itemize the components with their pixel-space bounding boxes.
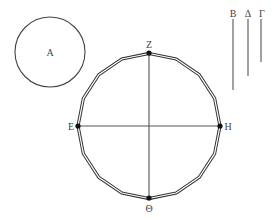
label-a: A xyxy=(46,47,54,58)
circle-a: A xyxy=(15,17,85,87)
label-z: Z xyxy=(146,39,152,50)
point-z xyxy=(146,50,151,55)
segment-b: B xyxy=(230,8,237,90)
segment-gamma: Γ xyxy=(259,8,265,62)
label-gamma: Γ xyxy=(259,8,265,19)
point-theta xyxy=(146,195,151,200)
geometry-diagram: A B Δ Γ Z E H Θ xyxy=(0,0,278,218)
segment-delta: Δ xyxy=(245,8,252,76)
label-delta: Δ xyxy=(245,8,252,19)
label-e: E xyxy=(68,121,74,132)
label-b: B xyxy=(230,8,237,19)
label-theta: Θ xyxy=(145,203,152,214)
label-h: H xyxy=(224,121,231,132)
point-e xyxy=(75,123,80,128)
point-h xyxy=(217,123,222,128)
